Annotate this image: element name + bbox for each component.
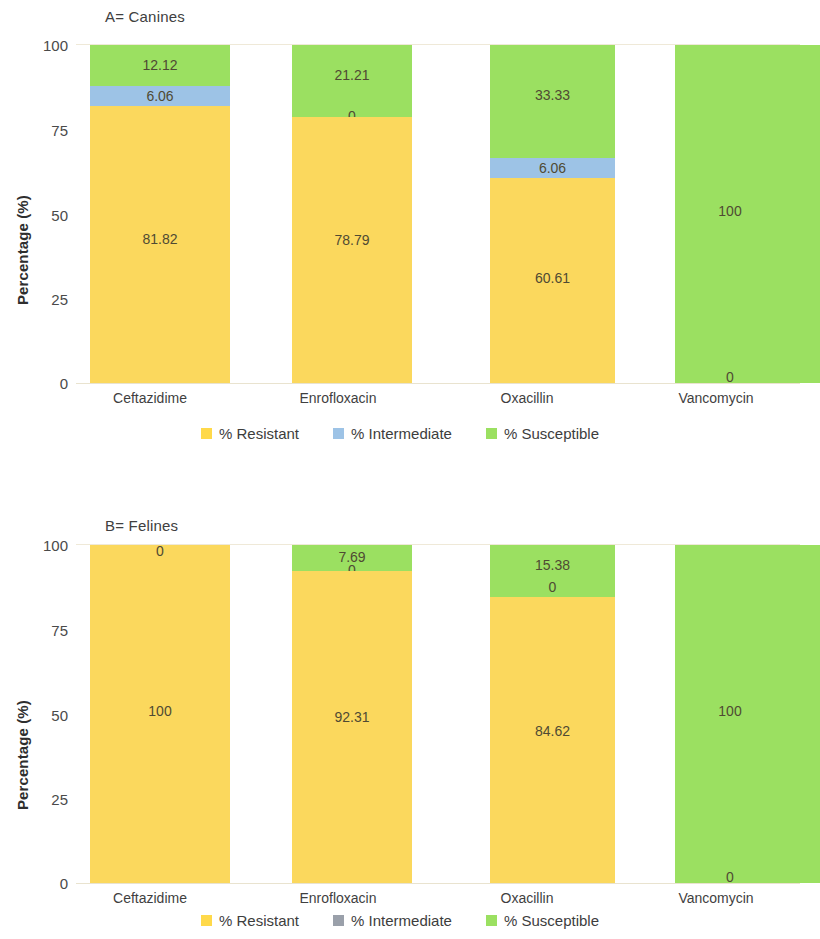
legend-swatch-susceptible-icon [486,428,497,439]
segment-label-susceptible: 21.21 [292,67,412,83]
bar-vancomycin-canines[interactable]: 100 0 [675,45,820,383]
segment-susceptible[interactable]: 12.12 [90,45,230,86]
bar-oxacillin-felines[interactable]: 15.38 0 84.62 [490,545,615,883]
segment-label-resistant: 84.62 [490,723,615,739]
bar-enrofloxacin-canines[interactable]: 21.21 0 78.79 [292,45,412,383]
legend-label-intermediate: % Intermediate [351,425,452,442]
segment-susceptible[interactable]: 100 [675,545,820,883]
segment-intermediate[interactable]: 6.06 [90,86,230,106]
y-tick-25: 25 [8,291,68,308]
segment-resistant[interactable]: 81.82 [90,106,230,383]
legend-canines: % Resistant % Intermediate % Susceptible [0,425,800,442]
x-tick-enrofloxacin: Enrofloxacin [299,890,376,906]
segment-resistant[interactable]: 84.62 [490,597,615,883]
y-tick-0: 0 [8,375,68,392]
segment-susceptible[interactable]: 15.38 [490,545,615,597]
legend-label-resistant: % Resistant [219,912,299,929]
y-tick-25: 25 [8,791,68,808]
segment-label-susceptible: 33.33 [490,87,615,103]
legend-item-susceptible[interactable]: % Susceptible [486,425,599,442]
chart-panel-felines: B= Felines Percentage (%) 100 75 50 25 0… [0,500,800,939]
segment-label-intermediate: 6.06 [490,160,615,176]
segment-label-resistant: 81.82 [90,231,230,247]
legend-item-intermediate[interactable]: % Intermediate [333,425,452,442]
x-tick-vancomycin: Vancomycin [678,890,753,906]
bar-ceftazidime-canines[interactable]: 12.12 6.06 81.82 [90,45,230,383]
legend-label-resistant: % Resistant [219,425,299,442]
legend-item-intermediate[interactable]: % Intermediate [333,912,452,929]
bar-oxacillin-canines[interactable]: 33.33 6.06 60.61 [490,45,615,383]
segment-susceptible[interactable]: 21.21 [292,45,412,117]
legend-swatch-resistant-icon [201,915,212,926]
x-tick-ceftazidime: Ceftazidime [113,890,187,906]
legend-item-susceptible[interactable]: % Susceptible [486,912,599,929]
legend-swatch-resistant-icon [201,428,212,439]
segment-label-susceptible: 100 [675,703,785,719]
y-tick-50: 50 [8,707,68,724]
legend-label-susceptible: % Susceptible [504,425,599,442]
bar-ceftazidime-felines[interactable]: 100 0 [90,545,230,883]
segment-label-resistant: 100 [90,703,230,719]
segment-intermediate[interactable]: 6.06 [490,158,615,178]
segment-resistant[interactable]: 60.61 [490,178,615,383]
plot-baseline [76,383,800,384]
segment-label-intermediate: 6.06 [90,88,230,104]
segment-label-resistant: 78.79 [292,232,412,248]
legend-swatch-intermediate-icon [333,915,344,926]
y-tick-0: 0 [8,875,68,892]
y-tick-75: 75 [8,622,68,639]
segment-resistant[interactable]: 78.79 [292,117,412,383]
bar-vancomycin-felines[interactable]: 100 0 [675,545,820,883]
segment-resistant[interactable]: 100 [90,545,230,883]
legend-item-resistant[interactable]: % Resistant [201,425,299,442]
y-tick-50: 50 [8,207,68,224]
panel-title-felines: B= Felines [105,517,178,534]
legend-label-susceptible: % Susceptible [504,912,599,929]
segment-susceptible[interactable]: 33.33 [490,45,615,158]
legend-swatch-intermediate-icon [333,428,344,439]
chart-panel-canines: A= Canines Percentage (%) 100 75 50 25 0… [0,0,800,470]
plot-baseline [76,883,800,884]
segment-susceptible[interactable]: 100 [675,45,820,383]
legend-item-resistant[interactable]: % Resistant [201,912,299,929]
y-tick-100: 100 [8,537,68,554]
segment-label-susceptible: 12.12 [90,57,230,73]
legend-felines: % Resistant % Intermediate % Susceptible [0,912,800,929]
y-tick-100: 100 [8,37,68,54]
panel-title-canines: A= Canines [105,8,185,25]
segment-label-resistant: 92.31 [292,709,412,725]
segment-label-susceptible: 100 [675,203,785,219]
x-tick-vancomycin: Vancomycin [678,390,753,406]
segment-susceptible[interactable]: 7.69 [292,545,412,571]
bar-enrofloxacin-felines[interactable]: 7.69 0 92.31 [292,545,412,883]
segment-label-susceptible: 15.38 [490,557,615,573]
segment-label-resistant: 60.61 [490,270,615,286]
segment-resistant[interactable]: 92.31 [292,571,412,883]
segment-label-susceptible: 7.69 [292,549,412,565]
x-tick-enrofloxacin: Enrofloxacin [299,390,376,406]
x-tick-oxacillin: Oxacillin [501,390,554,406]
x-tick-ceftazidime: Ceftazidime [113,390,187,406]
y-tick-75: 75 [8,122,68,139]
legend-swatch-susceptible-icon [486,915,497,926]
legend-label-intermediate: % Intermediate [351,912,452,929]
x-tick-oxacillin: Oxacillin [501,890,554,906]
